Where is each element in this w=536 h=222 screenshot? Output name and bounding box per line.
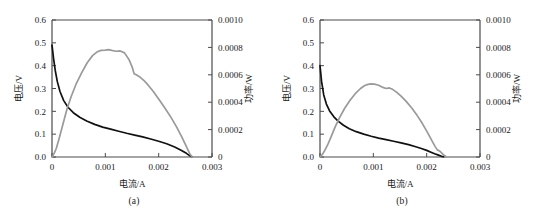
y-tick-label-left-a-4: 0.4: [35, 61, 47, 71]
x-tick-label-a-1: 0.001: [95, 162, 115, 172]
y-tick-label-right-a-0: 0: [218, 152, 223, 162]
y-tick-label-left-a-0: 0.0: [35, 152, 47, 162]
y-tick-label-right-a-2: 0.0004: [218, 97, 243, 107]
x-tick-label-a-3: 0.003: [202, 162, 223, 172]
y-tick-label-left-a-6: 0.6: [35, 15, 47, 25]
y-tick-label-right-a-4: 0.0008: [218, 43, 243, 53]
y-tick-label-right-a-1: 0.0002: [218, 125, 243, 135]
y-axis-title-left-b: 电压/V: [281, 74, 292, 102]
y-tick-label-left-b-6: 0.6: [303, 15, 315, 25]
x-axis-title-b: 电流/A: [387, 178, 415, 189]
x-tick-label-b-2: 0.002: [417, 162, 437, 172]
y-tick-label-right-a-3: 0.0006: [218, 70, 243, 80]
y-tick-label-left-b-3: 0.3: [303, 84, 315, 94]
y-tick-label-left-b-1: 0.1: [303, 129, 314, 139]
x-tick-label-b-1: 0.001: [363, 162, 383, 172]
chart-panel-b: 0.00.10.20.30.40.50.600.00020.00040.0006…: [268, 0, 536, 222]
x-tick-label-a-2: 0.002: [149, 162, 169, 172]
y-tick-label-left-a-1: 0.1: [35, 129, 46, 139]
y-axis-title-right-a: 功率/W: [243, 73, 254, 103]
y-tick-label-right-b-4: 0.0008: [486, 43, 511, 53]
x-tick-label-a-0: 0: [50, 162, 55, 172]
y-tick-label-left-b-0: 0.0: [303, 152, 315, 162]
figure-container: 0.00.10.20.30.40.50.600.00020.00040.0006…: [0, 0, 536, 222]
y-tick-label-left-a-5: 0.5: [35, 38, 47, 48]
y-tick-label-left-b-2: 0.2: [303, 107, 314, 117]
plot-group-b: 0.00.10.20.30.40.50.600.00020.00040.0006…: [281, 15, 522, 189]
y-tick-label-left-b-4: 0.4: [303, 61, 315, 71]
y-tick-label-right-b-5: 0.0010: [486, 15, 511, 25]
y-tick-label-right-b-3: 0.0006: [486, 70, 511, 80]
y-tick-label-right-b-0: 0: [486, 152, 491, 162]
chart-svg-b: 0.00.10.20.30.40.50.600.00020.00040.0006…: [268, 0, 536, 200]
voltage-curve-b: [320, 66, 444, 157]
panel-caption-b: (b): [268, 196, 536, 206]
chart-panel-a: 0.00.10.20.30.40.50.600.00020.00040.0006…: [0, 0, 268, 222]
x-tick-label-b-3: 0.003: [470, 162, 491, 172]
y-tick-label-right-a-5: 0.0010: [218, 15, 243, 25]
power-curve-b: [320, 84, 446, 157]
y-axis-title-right-b: 功率/W: [511, 73, 522, 103]
x-tick-label-b-0: 0: [318, 162, 323, 172]
y-tick-label-right-b-1: 0.0002: [486, 125, 511, 135]
y-tick-label-left-b-5: 0.5: [303, 38, 315, 48]
y-axis-title-left-a: 电压/V: [13, 74, 24, 102]
y-tick-label-left-a-2: 0.2: [35, 107, 46, 117]
panel-caption-a: (a): [0, 196, 268, 206]
chart-svg-a: 0.00.10.20.30.40.50.600.00020.00040.0006…: [0, 0, 268, 200]
y-tick-label-left-a-3: 0.3: [35, 84, 47, 94]
x-axis-title-a: 电流/A: [119, 178, 147, 189]
plot-group-a: 0.00.10.20.30.40.50.600.00020.00040.0006…: [13, 15, 254, 189]
y-tick-label-right-b-2: 0.0004: [486, 97, 511, 107]
power-curve-a: [52, 50, 192, 157]
voltage-curve-a: [52, 45, 192, 156]
